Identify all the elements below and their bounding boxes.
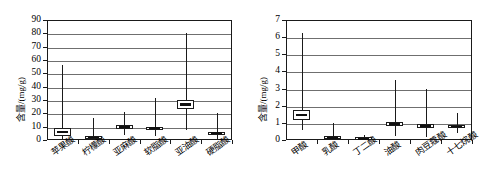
y-tick-label: 0 (258, 135, 280, 144)
x-tick-mark (109, 140, 110, 144)
gridline (48, 128, 231, 129)
gridline (48, 34, 231, 35)
y-tick-mark (43, 87, 47, 88)
y-tick-label: 90 (19, 15, 41, 24)
y-tick-label: 50 (19, 68, 41, 77)
plot-area-left (47, 20, 232, 140)
y-tick-label: 10 (19, 122, 41, 131)
y-tick-label: 80 (19, 28, 41, 37)
x-tick-mark (140, 140, 141, 144)
boxplot-median-line (389, 123, 400, 125)
y-tick-mark (282, 20, 286, 21)
gridline (287, 38, 471, 39)
boxplot-median-line (211, 132, 222, 134)
x-tick-mark (317, 140, 318, 144)
y-tick-label: 7 (258, 15, 280, 24)
x-axis-category-label: 乳酸 (319, 138, 341, 159)
y-tick-mark (282, 89, 286, 90)
y-tick-mark (43, 73, 47, 74)
y-tick-label: 3 (258, 84, 280, 93)
y-tick-mark (43, 20, 47, 21)
x-tick-mark (170, 140, 171, 144)
y-tick-label: 30 (19, 95, 41, 104)
y-tick-mark (282, 54, 286, 55)
gridline (48, 48, 231, 49)
gridline (287, 124, 471, 125)
gridline (48, 61, 231, 62)
gridline (48, 88, 231, 89)
y-tick-label: 4 (258, 66, 280, 75)
boxplot-median-line (327, 137, 338, 139)
y-tick-mark (282, 123, 286, 124)
chart-panel-right: 含量/(mg/g) 01234567甲酸乳酸丁二酸油酸肉豆蔻酸十七烷酸 (240, 0, 480, 187)
y-tick-label: 6 (258, 32, 280, 41)
y-tick-label: 5 (258, 49, 280, 58)
y-tick-mark (43, 113, 47, 114)
x-axis-category-label: 油酸 (381, 138, 403, 159)
gridline (48, 101, 231, 102)
boxplot-whisker (155, 98, 156, 136)
boxplot-median-line (57, 131, 68, 133)
gridline (287, 107, 471, 108)
gridline (48, 74, 231, 75)
boxplot-median-line (420, 125, 431, 127)
boxplot-figure: 含量/(mg/g) 0102030405060708090苹果酸柠檬酸亚麻酸软脂… (0, 0, 480, 187)
boxplot-median-line (119, 126, 130, 128)
y-tick-label: 40 (19, 82, 41, 91)
x-tick-mark (410, 140, 411, 144)
y-tick-label: 60 (19, 55, 41, 64)
boxplot-median-line (296, 114, 307, 116)
x-tick-mark (348, 140, 349, 144)
plot-area-right (286, 20, 472, 140)
y-tick-label: 2 (258, 101, 280, 110)
x-axis-category-label: 甲酸 (288, 138, 310, 159)
gridline (287, 90, 471, 91)
boxplot-whisker (124, 112, 125, 134)
y-tick-mark (43, 60, 47, 61)
boxplot-median-line (149, 127, 160, 129)
boxplot-whisker (426, 89, 427, 137)
y-tick-mark (282, 106, 286, 107)
boxplot-median-line (180, 103, 191, 105)
y-tick-label: 1 (258, 118, 280, 127)
y-tick-mark (43, 140, 47, 141)
y-tick-mark (43, 127, 47, 128)
y-tick-label: 20 (19, 108, 41, 117)
gridline (48, 114, 231, 115)
y-tick-mark (282, 71, 286, 72)
boxplot-median-line (88, 137, 99, 139)
boxplot-median-line (358, 138, 369, 140)
boxplot-whisker (395, 80, 396, 136)
gridline (287, 55, 471, 56)
y-tick-mark (43, 100, 47, 101)
y-tick-label: 70 (19, 42, 41, 51)
x-tick-mark (78, 140, 79, 144)
boxplot-whisker (457, 113, 458, 134)
y-tick-mark (43, 33, 47, 34)
gridline (287, 72, 471, 73)
boxplot-whisker (217, 113, 218, 139)
chart-panel-left: 含量/(mg/g) 0102030405060708090苹果酸柠檬酸亚麻酸软脂… (0, 0, 240, 187)
boxplot-whisker (186, 33, 187, 130)
boxplot-median-line (451, 126, 462, 128)
y-tick-label: 0 (19, 135, 41, 144)
y-tick-mark (282, 37, 286, 38)
y-tick-mark (282, 140, 286, 141)
y-tick-mark (43, 47, 47, 48)
